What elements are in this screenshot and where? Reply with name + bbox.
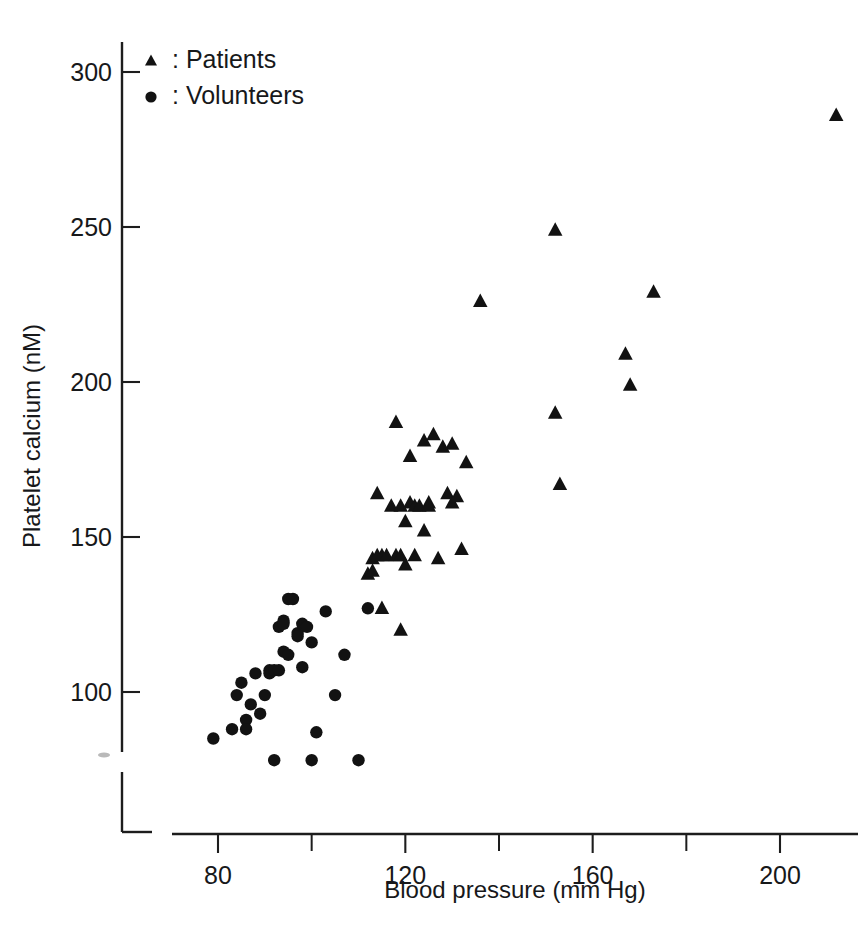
- y-tick-label-300: 300: [70, 58, 112, 86]
- data-point-volunteer: [235, 677, 247, 689]
- y-tick-label-200: 200: [70, 368, 112, 396]
- data-point-volunteer: [329, 689, 341, 701]
- data-point-patient: [445, 436, 460, 450]
- x-tick-label-80: 80: [204, 861, 232, 889]
- data-point-volunteer: [352, 754, 364, 766]
- data-point-patient: [618, 346, 633, 360]
- legend-marker-triangle: [145, 55, 157, 66]
- data-point-patient: [553, 476, 568, 490]
- data-point-patient: [548, 222, 563, 236]
- data-point-volunteer: [282, 649, 294, 661]
- data-point-patient: [389, 414, 404, 428]
- scan-artifact-speck: [98, 753, 110, 758]
- data-point-patient: [473, 294, 488, 308]
- y-tick-group: 100150200250300: [70, 58, 140, 706]
- y-tick-label-250: 250: [70, 213, 112, 241]
- data-point-patient: [407, 548, 422, 562]
- data-point-patient: [623, 377, 638, 391]
- data-point-patient: [829, 108, 844, 122]
- data-point-volunteer: [287, 593, 299, 605]
- circle-icon: [145, 91, 156, 102]
- data-point-volunteer: [240, 723, 252, 735]
- data-point-volunteer: [277, 618, 289, 630]
- legend-label-volunteers: : Volunteers: [172, 81, 304, 109]
- data-point-volunteer: [305, 754, 317, 766]
- data-point-patient: [548, 405, 563, 419]
- data-point-patient: [646, 284, 661, 298]
- data-point-volunteer: [226, 723, 238, 735]
- data-point-patient: [431, 551, 446, 565]
- data-point-patient: [454, 542, 469, 556]
- data-point-patient: [393, 622, 408, 636]
- data-point-patient: [370, 486, 385, 500]
- data-point-volunteer: [254, 708, 266, 720]
- data-point-volunteer: [231, 689, 243, 701]
- data-point-volunteer: [249, 667, 261, 679]
- data-point-patient: [417, 523, 432, 537]
- figure-container: 100150200250300 80120160200 : Patients :…: [0, 0, 861, 944]
- y-axis-title: Platelet calcium (nM): [18, 324, 45, 548]
- scatter-plot: 100150200250300 80120160200 : Patients :…: [0, 0, 861, 944]
- data-point-volunteer: [296, 661, 308, 673]
- data-point-volunteer: [310, 726, 322, 738]
- data-point-volunteer: [301, 621, 313, 633]
- data-point-patient: [426, 427, 441, 441]
- data-point-volunteer: [273, 664, 285, 676]
- legend-label-patients: : Patients: [172, 45, 276, 73]
- data-point-patient: [375, 600, 390, 614]
- data-point-patient: [459, 455, 474, 469]
- data-point-volunteer: [362, 602, 374, 614]
- data-point-volunteer: [259, 689, 271, 701]
- data-point-volunteer: [268, 754, 280, 766]
- data-point-volunteer: [245, 698, 257, 710]
- x-tick-label-200: 200: [759, 861, 801, 889]
- triangle-icon: [145, 55, 157, 66]
- x-axis-title: Blood pressure (mm Hg): [384, 876, 645, 903]
- data-point-volunteer: [338, 649, 350, 661]
- data-point-patient: [398, 514, 413, 528]
- y-tick-label-150: 150: [70, 523, 112, 551]
- axes-group: [98, 42, 858, 834]
- data-point-volunteer: [320, 605, 332, 617]
- data-point-volunteer: [291, 630, 303, 642]
- data-point-patient: [403, 449, 418, 463]
- y-tick-label-100: 100: [70, 678, 112, 706]
- legend: : Patients : Volunteers: [145, 45, 304, 109]
- data-point-volunteer: [305, 636, 317, 648]
- data-point-volunteer: [207, 732, 219, 744]
- data-markers-group: [207, 108, 843, 767]
- legend-marker-circle: [145, 91, 156, 102]
